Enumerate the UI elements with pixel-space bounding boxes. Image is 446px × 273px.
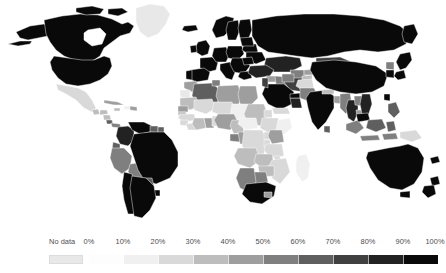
legend-tick-80: 80% bbox=[358, 237, 378, 247]
region-finland bbox=[238, 19, 252, 40]
region-dominican-republic bbox=[130, 106, 137, 111]
region-madagascar bbox=[296, 154, 310, 182]
region-new-caledonia bbox=[430, 156, 440, 164]
region-kenya bbox=[268, 130, 284, 144]
region-cuba bbox=[104, 100, 124, 105]
region-vietnam bbox=[360, 94, 372, 116]
legend-tick-100: 100% bbox=[424, 237, 446, 247]
region-romania bbox=[242, 57, 254, 65]
region-australia bbox=[366, 144, 424, 190]
region-aleutians bbox=[8, 41, 32, 46]
region-united-states bbox=[50, 56, 112, 86]
region-western-sahara bbox=[180, 90, 190, 98]
region-borneo bbox=[366, 119, 386, 132]
region-baltics bbox=[240, 37, 254, 46]
legend-no-data-label: No data bbox=[49, 237, 75, 247]
legend-bin-50-60 bbox=[264, 255, 299, 264]
region-north-korea bbox=[386, 62, 394, 70]
region-ireland bbox=[190, 45, 197, 53]
legend-bar-row bbox=[0, 255, 446, 264]
region-tasmania bbox=[400, 191, 410, 198]
world-map-svg bbox=[0, 0, 446, 228]
legend-tick-0: 0% bbox=[79, 237, 99, 247]
legend-bin-30-40 bbox=[194, 255, 229, 264]
region-canada-arctic-2 bbox=[108, 8, 128, 16]
region-greenland bbox=[136, 4, 170, 38]
legend-tick-labels: No data 0% 10% 20% 30% 40% 50% 60% 70% 8… bbox=[0, 237, 446, 249]
region-new-zealand-south bbox=[422, 185, 436, 198]
region-sri-lanka bbox=[324, 126, 330, 133]
region-canada-arctic-1 bbox=[76, 6, 104, 15]
region-japan bbox=[396, 52, 412, 70]
legend-bin-60-70 bbox=[299, 255, 334, 264]
region-indonesia-sumatra bbox=[346, 120, 364, 134]
legend-bin-20-30 bbox=[159, 255, 194, 264]
region-oman bbox=[290, 98, 302, 108]
legend-bin-80-90 bbox=[369, 255, 404, 264]
legend: No data 0% 10% 20% 30% 40% 50% 60% 70% 8… bbox=[0, 228, 446, 273]
region-tunisia bbox=[212, 80, 220, 86]
legend-bin-90-100 bbox=[404, 255, 438, 264]
region-uae bbox=[290, 93, 300, 98]
region-kamchatka bbox=[402, 24, 418, 44]
region-israel-jordan bbox=[262, 78, 268, 88]
legend-bin-10-20 bbox=[124, 255, 159, 264]
region-yemen bbox=[272, 108, 290, 114]
legend-tick-90: 90% bbox=[393, 237, 413, 247]
legend-tick-60: 60% bbox=[288, 237, 308, 247]
region-egypt bbox=[238, 86, 258, 106]
region-haiti bbox=[124, 106, 130, 110]
legend-tick-40: 40% bbox=[218, 237, 238, 247]
region-jamaica bbox=[114, 108, 120, 111]
region-turkmenistan bbox=[282, 74, 294, 82]
region-senegal bbox=[178, 106, 188, 112]
region-new-zealand-north bbox=[430, 176, 440, 186]
region-japan-south bbox=[394, 70, 406, 80]
region-indonesia-java bbox=[360, 135, 380, 141]
region-india bbox=[306, 90, 334, 130]
legend-tick-10: 10% bbox=[113, 237, 133, 247]
region-saudi-arabia bbox=[262, 84, 294, 110]
region-indonesia-east bbox=[382, 133, 398, 140]
legend-tick-20: 20% bbox=[148, 237, 168, 247]
region-taiwan bbox=[384, 94, 390, 101]
region-sweden bbox=[226, 20, 240, 40]
region-south-korea bbox=[386, 70, 394, 78]
region-china bbox=[310, 60, 388, 94]
region-mexico bbox=[56, 84, 96, 112]
region-iceland bbox=[182, 25, 198, 32]
region-lesotho bbox=[264, 192, 272, 198]
legend-tick-50: 50% bbox=[253, 237, 273, 247]
region-sulawesi bbox=[386, 121, 396, 132]
region-nicaragua bbox=[103, 115, 111, 120]
region-papua-new-guinea bbox=[400, 130, 422, 142]
legend-bin-0-10 bbox=[89, 255, 124, 264]
region-portugal bbox=[186, 70, 192, 80]
world-map-choropleth-figure: No data 0% 10% 20% 30% 40% 50% 60% 70% 8… bbox=[0, 0, 446, 273]
legend-bin-40-50 bbox=[229, 255, 264, 264]
region-eritrea bbox=[264, 110, 272, 118]
legend-gradient-bar bbox=[89, 255, 438, 264]
legend-no-data-swatch bbox=[49, 255, 83, 264]
region-honduras bbox=[100, 110, 108, 115]
region-russia bbox=[252, 14, 410, 58]
region-philippines bbox=[388, 102, 400, 118]
legend-tick-70: 70% bbox=[323, 237, 343, 247]
region-united-kingdom bbox=[196, 40, 210, 56]
map-canvas bbox=[0, 0, 446, 228]
legend-bin-70-80 bbox=[334, 255, 369, 264]
legend-tick-30: 30% bbox=[183, 237, 203, 247]
region-guatemala bbox=[92, 109, 100, 115]
